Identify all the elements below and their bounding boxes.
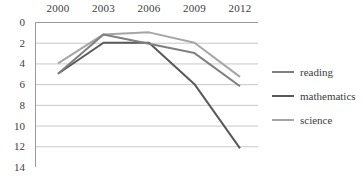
y-tick-label: 14 <box>0 161 25 173</box>
x-tick-label: 2009 <box>175 2 215 14</box>
legend-item-science[interactable]: science <box>272 108 362 132</box>
legend-swatch-icon <box>272 71 294 73</box>
x-tick-label: 2006 <box>129 2 169 14</box>
legend-swatch-icon <box>272 119 294 121</box>
y-tick-label: 4 <box>0 57 25 69</box>
legend-label: science <box>300 114 332 126</box>
series-line-mathematics <box>58 43 240 149</box>
y-tick-label: 2 <box>0 37 25 49</box>
y-tick-label: 8 <box>0 99 25 111</box>
y-tick-label: 6 <box>0 78 25 90</box>
chart-legend: readingmathematicsscience <box>272 60 362 132</box>
y-tick-label: 12 <box>0 140 25 152</box>
legend-label: mathematics <box>300 90 356 102</box>
legend-swatch-icon <box>272 95 294 97</box>
x-tick-label: 2000 <box>38 2 78 14</box>
legend-item-reading[interactable]: reading <box>272 60 362 84</box>
y-tick-label: 10 <box>0 120 25 132</box>
y-tick-label: 0 <box>0 16 25 28</box>
line-chart: 20002003200620092012 02468101214 reading… <box>0 0 363 182</box>
plot-canvas <box>35 22 258 167</box>
x-tick-label: 2003 <box>84 2 124 14</box>
plot-area <box>35 22 258 167</box>
series-lines <box>58 32 240 148</box>
legend-item-mathematics[interactable]: mathematics <box>272 84 362 108</box>
legend-label: reading <box>300 66 333 78</box>
x-tick-label: 2012 <box>220 2 260 14</box>
